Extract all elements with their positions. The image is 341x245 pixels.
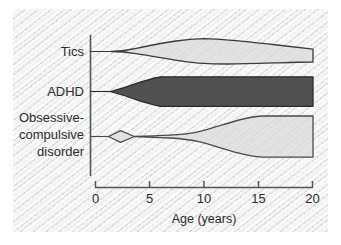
ocd-band [135, 116, 314, 157]
tick-label-15: 15 [251, 191, 265, 206]
tick-label-5: 5 [146, 191, 153, 206]
x-axis-label: Age (years) [172, 212, 237, 226]
row-label-tics: Tics [61, 44, 85, 59]
row-label-ocd-line3: disorder [37, 144, 85, 159]
row-label-ocd-line1: Obsessive- [19, 110, 84, 125]
row-label-ocd-line2: compulsive [19, 127, 84, 142]
row-label-adhd: ADHD [47, 84, 84, 99]
adhd-band [111, 77, 314, 107]
figure-panel: Tics ADHD Obsessive- compulsive disorder… [0, 0, 341, 245]
tics-band [111, 39, 313, 64]
ocd-early-bump [109, 131, 135, 143]
band-chart: Tics ADHD Obsessive- compulsive disorder… [0, 0, 341, 245]
tick-label-0: 0 [92, 191, 99, 206]
tick-label-20: 20 [305, 191, 319, 206]
tick-label-10: 10 [197, 191, 211, 206]
